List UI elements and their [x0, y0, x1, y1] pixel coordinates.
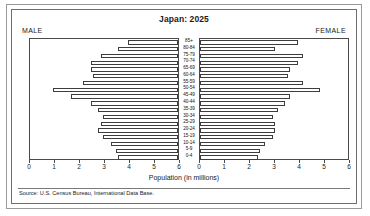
- bar-male-75-79: [101, 54, 179, 58]
- bar-female-30-34: [200, 115, 273, 119]
- age-label-20-24: 20-24: [179, 126, 199, 133]
- age-label-10-14: 10-14: [179, 140, 199, 147]
- bar-female-80-84: [200, 47, 275, 51]
- age-label-50-54: 50-54: [179, 85, 199, 92]
- bar-male-65-69: [91, 67, 179, 71]
- bar-female-50-54: [200, 88, 320, 92]
- axis-tick-label: 6: [172, 163, 186, 170]
- axis-tick-label: 0: [192, 163, 206, 170]
- age-label-0-4: 0-4: [179, 153, 199, 160]
- axis-tick-label: 1: [47, 163, 61, 170]
- bar-male-40-44: [91, 101, 179, 105]
- source-note: Source: U.S. Census Bureau, Internationa…: [19, 190, 154, 196]
- bar-female-60-64: [200, 74, 288, 78]
- axis-tick-label: 1: [217, 163, 231, 170]
- bar-female-55-59: [200, 81, 303, 85]
- age-group-labels: 85+80-8475-7970-7465-6960-6455-5950-5445…: [179, 38, 199, 160]
- bar-male-55-59: [83, 81, 178, 85]
- bar-male-10-14: [111, 142, 179, 146]
- age-label-70-74: 70-74: [179, 58, 199, 65]
- bar-male-60-64: [93, 74, 178, 78]
- bar-female-45-49: [200, 94, 290, 98]
- age-label-75-79: 75-79: [179, 52, 199, 59]
- bar-female-15-19: [200, 135, 273, 139]
- age-label-80-84: 80-84: [179, 45, 199, 52]
- source-divider: [18, 188, 350, 189]
- bar-male-45-49: [71, 94, 179, 98]
- bar-female-35-39: [200, 108, 278, 112]
- age-label-30-34: 30-34: [179, 113, 199, 120]
- bar-female-75-79: [200, 54, 303, 58]
- axis-tick-label: 2: [72, 163, 86, 170]
- age-label-25-29: 25-29: [179, 119, 199, 126]
- female-bars-panel: [199, 38, 349, 160]
- bar-male-20-24: [98, 128, 178, 132]
- age-label-60-64: 60-64: [179, 72, 199, 79]
- male-panel-label: MALE: [22, 27, 43, 34]
- age-label-45-49: 45-49: [179, 92, 199, 99]
- x-axis-title: Population (in millions): [12, 174, 356, 181]
- bar-male-5-9: [116, 149, 179, 153]
- female-x-axis: 0123456: [199, 160, 349, 174]
- bar-female-5-9: [200, 149, 260, 153]
- bar-female-85+: [200, 40, 298, 44]
- female-panel-label: FEMALE: [316, 27, 346, 34]
- bar-male-80-84: [118, 47, 178, 51]
- male-x-axis: 6543210: [29, 160, 179, 174]
- age-label-40-44: 40-44: [179, 99, 199, 106]
- axis-tick-label: 3: [267, 163, 281, 170]
- bar-male-50-54: [53, 88, 178, 92]
- bar-male-30-34: [103, 115, 178, 119]
- axis-tick-label: 5: [147, 163, 161, 170]
- population-pyramid-plot: 85+80-8475-7970-7465-6960-6455-5950-5445…: [29, 38, 349, 160]
- age-label-55-59: 55-59: [179, 79, 199, 86]
- axis-tick-label: 5: [317, 163, 331, 170]
- bar-female-70-74: [200, 61, 298, 65]
- age-label-65-69: 65-69: [179, 65, 199, 72]
- male-bars-panel: [29, 38, 179, 160]
- bar-male-85+: [128, 40, 178, 44]
- age-label-15-19: 15-19: [179, 133, 199, 140]
- axis-tick-label: 2: [242, 163, 256, 170]
- axis-tick-label: 4: [122, 163, 136, 170]
- bar-male-15-19: [103, 135, 178, 139]
- axis-tick-label: 6: [342, 163, 356, 170]
- bar-female-65-69: [200, 67, 290, 71]
- age-label-35-39: 35-39: [179, 106, 199, 113]
- bar-male-25-29: [101, 122, 179, 126]
- axis-tick-label: 4: [292, 163, 306, 170]
- bar-female-10-14: [200, 142, 265, 146]
- bar-male-70-74: [91, 61, 179, 65]
- figure-inner-frame: Japan: 2025 MALE FEMALE 85+80-8475-7970-…: [11, 9, 357, 204]
- axis-tick-label: 0: [22, 163, 36, 170]
- bar-female-40-44: [200, 101, 285, 105]
- bar-female-20-24: [200, 128, 275, 132]
- chart-title: Japan: 2025: [12, 14, 356, 24]
- bar-male-35-39: [98, 108, 178, 112]
- age-label-5-9: 5-9: [179, 146, 199, 153]
- age-label-85+: 85+: [179, 38, 199, 45]
- bar-female-25-29: [200, 122, 275, 126]
- figure-outer-frame: Japan: 2025 MALE FEMALE 85+80-8475-7970-…: [6, 4, 362, 209]
- axis-tick-label: 3: [97, 163, 111, 170]
